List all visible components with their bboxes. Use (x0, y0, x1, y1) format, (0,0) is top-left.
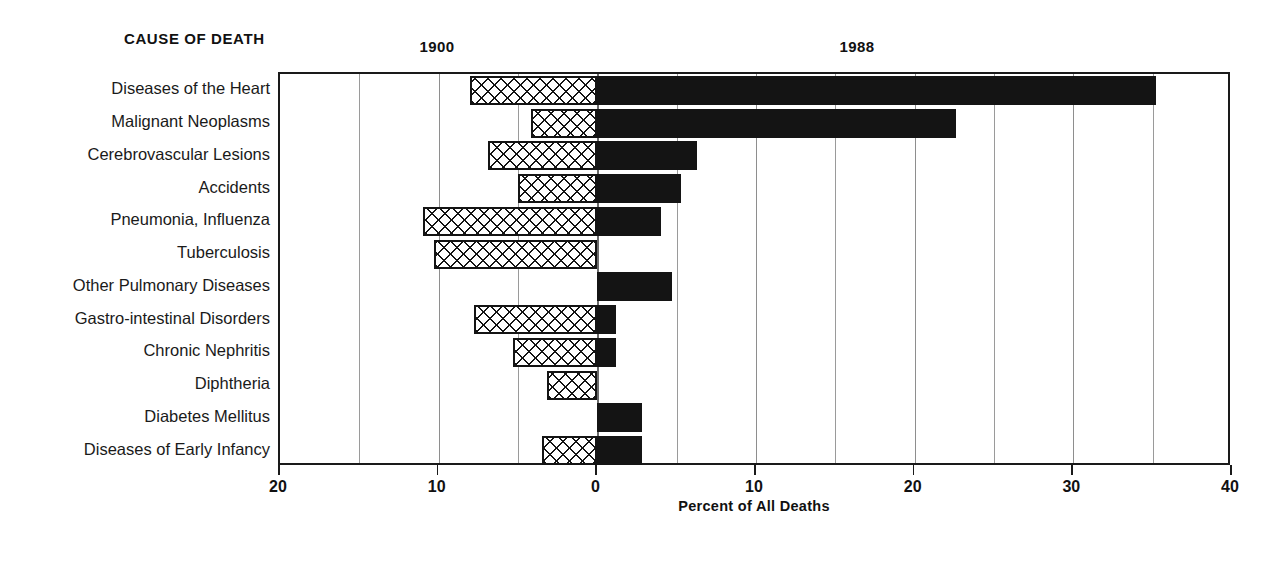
category-label: Other Pulmonary Diseases (2, 277, 270, 294)
bar-1900 (518, 174, 597, 203)
series-header-1900: 1900 (420, 38, 455, 55)
bar-1900 (513, 338, 597, 367)
category-label: Diabetes Mellitus (2, 408, 270, 425)
x-axis-tick-label: 40 (1221, 478, 1239, 496)
chart-root: CAUSE OF DEATH 1900 1988 Diseases of the… (0, 0, 1285, 566)
x-axis-tick (1230, 465, 1232, 475)
x-axis-tick (278, 465, 280, 475)
category-label: Chronic Nephritis (2, 342, 270, 359)
x-axis-tick (595, 465, 597, 475)
x-axis-tick-label: 0 (591, 478, 600, 496)
category-label: Accidents (2, 179, 270, 196)
x-axis-title-wrap: Percent of All Deaths (278, 497, 1230, 515)
category-label: Pneumonia, Influenza (2, 211, 270, 228)
category-label: Diseases of Early Infancy (2, 441, 270, 458)
gridline (994, 74, 995, 463)
category-label: Cerebrovascular Lesions (2, 146, 270, 163)
x-axis-tick (437, 465, 439, 475)
x-axis-tick-label: 10 (745, 478, 763, 496)
bar-1988 (597, 109, 956, 138)
bar-1988 (597, 141, 697, 170)
category-label: Diphtheria (2, 375, 270, 392)
bar-1900 (542, 436, 598, 465)
x-axis-title: Percent of All Deaths (678, 498, 830, 514)
bar-1900 (547, 371, 598, 400)
gridline (359, 74, 360, 463)
x-axis-tick (913, 465, 915, 475)
bar-1988 (597, 174, 681, 203)
x-axis-tick (754, 465, 756, 475)
bar-1988 (597, 305, 616, 334)
bar-1988 (597, 76, 1156, 105)
bar-1900 (470, 76, 597, 105)
bar-1988 (597, 403, 641, 432)
x-axis-tick (1071, 465, 1073, 475)
bar-1900 (488, 141, 597, 170)
bar-1988 (597, 207, 660, 236)
category-label: Gastro-intestinal Disorders (2, 310, 270, 327)
gridline-major (1073, 74, 1074, 463)
bar-1900 (423, 207, 598, 236)
x-axis-tick-label: 20 (269, 478, 287, 496)
category-label-column: Diseases of the HeartMalignant Neoplasms… (0, 72, 270, 465)
bar-1988 (597, 338, 616, 367)
x-axis-tick-label: 30 (1062, 478, 1080, 496)
series-header-1988: 1988 (840, 38, 875, 55)
plot-area (278, 72, 1230, 465)
x-axis-tick-label: 20 (904, 478, 922, 496)
bar-1900 (474, 305, 598, 334)
bar-1988 (597, 436, 641, 465)
category-label: Tuberculosis (2, 244, 270, 261)
cause-of-death-heading: CAUSE OF DEATH (124, 30, 265, 47)
bar-1900 (434, 240, 597, 269)
bar-1988 (597, 272, 672, 301)
x-axis-tick-label: 10 (428, 478, 446, 496)
gridline (1153, 74, 1154, 463)
category-label: Malignant Neoplasms (2, 113, 270, 130)
category-label: Diseases of the Heart (2, 80, 270, 97)
bar-1900 (531, 109, 598, 138)
